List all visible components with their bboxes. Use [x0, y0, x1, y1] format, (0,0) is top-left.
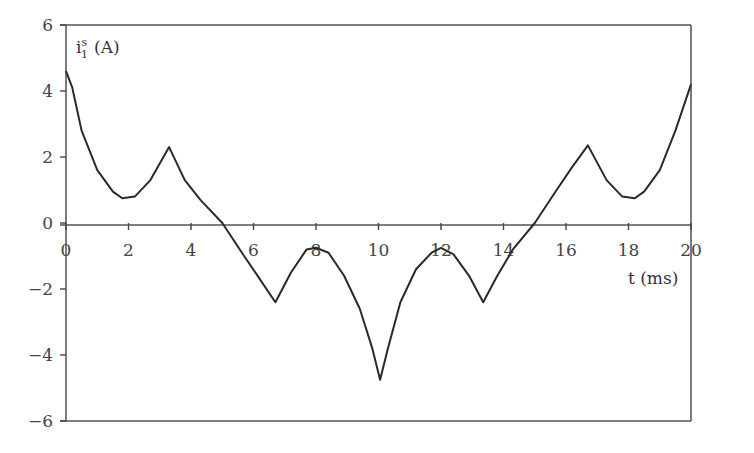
x-tick-label: 0	[61, 240, 72, 260]
x-tick-label: 16	[555, 240, 577, 260]
x-tick-label: 12	[430, 240, 452, 260]
x-ticks: 02468101214161820	[61, 223, 702, 260]
y-tick-label: −4	[28, 345, 53, 365]
x-tick-label: 20	[680, 240, 702, 260]
y-tick-label: 2	[42, 147, 53, 167]
y-ticks: 6420−2−4−6	[28, 15, 66, 431]
x-tick-label: 10	[368, 240, 390, 260]
x-tick-label: 4	[186, 240, 197, 260]
y-tick-label: 0	[42, 213, 53, 233]
x-tick-label: 14	[493, 240, 515, 260]
y-axis-label: is1(A)	[76, 36, 120, 61]
x-tick-label: 18	[618, 240, 640, 260]
y-tick-label: −2	[28, 279, 53, 299]
x-tick-label: 2	[123, 240, 134, 260]
x-axis-label: t (ms)	[628, 268, 678, 288]
y-tick-label: −6	[28, 411, 53, 431]
y-tick-label: 4	[42, 81, 53, 101]
x-tick-label: 6	[248, 240, 259, 260]
y-tick-label: 6	[42, 15, 53, 35]
chart: 6420−2−4−6 02468101214161820 is1(A) t (m…	[0, 0, 754, 453]
